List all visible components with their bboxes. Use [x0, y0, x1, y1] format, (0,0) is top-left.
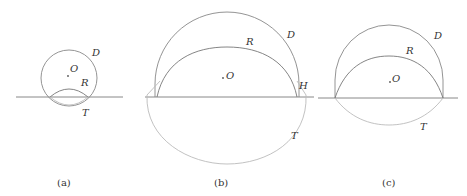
- label-t-c: T: [420, 121, 428, 132]
- diagram-canvas: O D R T (a) O D R H T (b) O D R T (c): [0, 0, 467, 196]
- label-t-b: T: [291, 130, 299, 141]
- arc-t-c: [335, 98, 443, 125]
- caption-a: (a): [57, 177, 71, 188]
- arc-h-b: [147, 81, 306, 95]
- figure-c: O D R T (c): [318, 25, 458, 188]
- label-r-c: R: [405, 45, 414, 56]
- center-point-c: [389, 81, 391, 83]
- label-h-b: H: [298, 80, 308, 91]
- arc-d-c: [335, 25, 443, 98]
- label-r-a: R: [80, 77, 89, 88]
- caption-c: (c): [382, 177, 396, 188]
- arc-t-a: [50, 97, 88, 105]
- center-point-b: [222, 77, 224, 79]
- circle-d-a: [41, 50, 97, 106]
- figure-a: O D R T (a): [16, 47, 123, 188]
- arc-t-b: [147, 95, 306, 164]
- label-d-c: D: [433, 30, 442, 41]
- label-r-b: R: [245, 36, 254, 47]
- arc-r-a: [50, 89, 88, 97]
- caption-b: (b): [214, 177, 228, 188]
- label-o-c: O: [392, 73, 400, 84]
- label-d-a: D: [91, 47, 100, 58]
- arc-r-c: [335, 56, 443, 98]
- label-o-b: O: [226, 70, 234, 81]
- center-point-a: [67, 75, 69, 77]
- label-t-a: T: [82, 107, 90, 118]
- figure-b: O D R H T (b): [145, 12, 314, 188]
- arc-d-b: [155, 12, 299, 97]
- label-d-b: D: [286, 29, 295, 40]
- label-o-a: O: [70, 63, 78, 74]
